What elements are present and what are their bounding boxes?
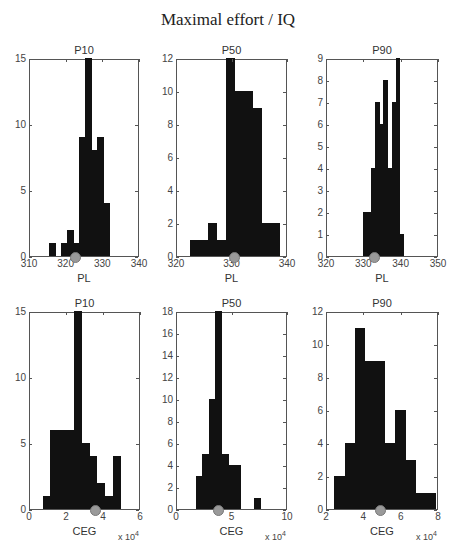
y-tick-label: 18 [149, 306, 173, 317]
plot-area [326, 59, 438, 257]
y-tick-label: 3 [299, 185, 323, 196]
y-tick-label: 4 [299, 438, 323, 449]
y-tick-mark [176, 334, 179, 335]
x-tick-mark-top [176, 59, 177, 62]
y-tick-label: 12 [299, 306, 323, 317]
histogram-bar [365, 361, 376, 510]
x-tick-label: 4 [348, 511, 378, 522]
y-tick-label: 2 [149, 218, 173, 229]
y-tick-mark [176, 488, 179, 489]
y-tick-mark [176, 356, 179, 357]
y-tick-label: 2 [299, 471, 323, 482]
panel-title: P50 [176, 297, 287, 309]
x-tick-mark-top [29, 59, 30, 62]
y-tick-mark-right [283, 125, 286, 126]
y-tick-mark [326, 191, 329, 192]
y-tick-mark-right [283, 422, 286, 423]
y-tick-mark-right [434, 378, 437, 379]
x-axis-multiplier: x 104 [118, 530, 139, 542]
y-tick-mark [176, 400, 179, 401]
y-tick-mark [326, 213, 329, 214]
x-tick-mark-top [232, 312, 233, 315]
panel-title: P10 [29, 44, 139, 56]
y-tick-label: 12 [149, 53, 173, 64]
y-tick-label: 4 [299, 163, 323, 174]
histogram-bar [103, 203, 109, 256]
y-tick-mark [326, 444, 329, 445]
y-tick-label: 4 [149, 185, 173, 196]
x-tick-mark-top [363, 312, 364, 315]
x-tick-mark-top [438, 59, 439, 62]
y-tick-mark-right [283, 158, 286, 159]
y-tick-mark-right [434, 125, 437, 126]
x-tick-label: 2 [311, 511, 341, 522]
y-tick-mark-right [283, 92, 286, 93]
y-tick-mark-right [434, 169, 437, 170]
y-tick-label: 6 [149, 438, 173, 449]
histogram-bar [234, 465, 241, 509]
y-tick-mark-right [136, 378, 139, 379]
x-tick-label: 340 [386, 258, 416, 269]
y-tick-label: 2 [149, 482, 173, 493]
x-tick-label: 0 [14, 511, 44, 522]
histogram-bar [396, 58, 401, 256]
y-tick-mark [326, 103, 329, 104]
y-tick-mark-right [434, 312, 437, 313]
y-tick-mark [176, 422, 179, 423]
x-tick-label: 320 [161, 258, 191, 269]
y-tick-mark-right [135, 125, 138, 126]
y-tick-mark [176, 125, 179, 126]
y-tick-mark-right [434, 345, 437, 346]
y-tick-label: 6 [149, 152, 173, 163]
y-tick-mark [176, 444, 179, 445]
y-tick-mark-right [283, 444, 286, 445]
y-tick-label: 10 [2, 119, 26, 130]
x-axis-multiplier: x 104 [265, 530, 286, 542]
x-tick-mark-top [140, 312, 141, 315]
panel-title: P90 [326, 44, 438, 56]
x-tick-mark-top [232, 59, 233, 62]
y-tick-label: 15 [2, 306, 26, 317]
x-tick-mark-top [139, 59, 140, 62]
y-tick-mark-right [283, 59, 286, 60]
y-tick-mark-right [283, 224, 286, 225]
y-tick-mark-right [136, 444, 139, 445]
y-tick-label: 6 [299, 405, 323, 416]
x-tick-label: 350 [423, 258, 453, 269]
y-tick-label: 16 [149, 328, 173, 339]
histogram-bar [270, 223, 279, 256]
x-tick-mark-top [438, 312, 439, 315]
figure-title: Maximal effort / IQ [0, 10, 456, 30]
y-tick-mark-right [434, 147, 437, 148]
y-tick-label: 9 [299, 53, 323, 64]
y-tick-mark [326, 147, 329, 148]
y-tick-mark [176, 224, 179, 225]
y-tick-label: 1 [299, 229, 323, 240]
x-tick-mark-top [66, 59, 67, 62]
histogram-bar [355, 328, 366, 510]
x-axis-label: PL [176, 272, 287, 284]
y-tick-label: 12 [149, 372, 173, 383]
histogram-bar [385, 443, 396, 509]
x-tick-label: 310 [14, 258, 44, 269]
y-tick-mark-right [434, 81, 437, 82]
plot-area [29, 59, 139, 257]
x-tick-mark-top [287, 59, 288, 62]
y-tick-mark-right [434, 213, 437, 214]
y-tick-mark [326, 81, 329, 82]
x-tick-mark-top [66, 312, 67, 315]
y-tick-mark-right [434, 235, 437, 236]
y-tick-mark [326, 411, 329, 412]
x-tick-label: 320 [311, 258, 341, 269]
y-tick-mark [326, 169, 329, 170]
y-tick-mark [326, 378, 329, 379]
x-tick-label: 340 [272, 258, 302, 269]
histogram-bar [375, 361, 386, 510]
y-tick-label: 15 [2, 53, 26, 64]
x-tick-label: 330 [87, 258, 117, 269]
x-tick-mark-top [103, 312, 104, 315]
y-tick-mark-right [283, 488, 286, 489]
y-tick-mark-right [283, 334, 286, 335]
x-tick-label: 2 [51, 511, 81, 522]
histogram-bar [405, 460, 416, 510]
